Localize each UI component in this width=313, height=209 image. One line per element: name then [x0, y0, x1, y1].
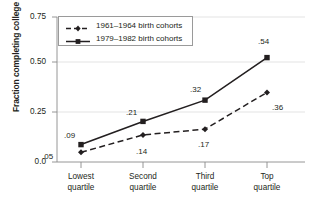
data-label-1961-1964-third: .17 — [198, 140, 209, 149]
data-point — [78, 142, 83, 147]
y-tick-label-075: 0.75 — [16, 12, 46, 21]
x-tick-label-top-quartile: Top quartile — [232, 172, 302, 193]
series-markers-1979-1982 — [78, 55, 269, 147]
legend-item-1979-1982[interactable]: 1979–1982 birth cohorts — [65, 32, 182, 45]
x-tick-label-line-2: quartile — [108, 183, 178, 194]
data-point — [202, 97, 207, 102]
legend-label-1979-1982: 1979–1982 birth cohorts — [96, 34, 182, 43]
x-tick-label-line-2: quartile — [46, 183, 116, 194]
data-point — [202, 126, 208, 132]
data-label-1979-1982-lowest: .09 — [64, 131, 75, 140]
legend-item-1961-1964[interactable]: 1961–1964 birth cohorts — [65, 19, 182, 32]
series-line-1961-1964 — [81, 92, 267, 152]
data-label-1979-1982-top: .54 — [258, 37, 269, 46]
chart-container: Fraction completing college 0.75 0.50 0.… — [0, 0, 313, 209]
data-point — [140, 119, 145, 124]
x-tick-label-line-1: Third — [170, 172, 240, 183]
x-tick-label-line-2: quartile — [232, 183, 302, 194]
x-tick-label-line-1: Top — [232, 172, 302, 183]
x-tick-label-second-quartile: Second quartile — [108, 172, 178, 193]
data-label-1961-1964-second: .14 — [136, 147, 147, 156]
data-point — [78, 149, 84, 155]
x-tick-label-line-1: Lowest — [46, 172, 116, 183]
legend-label-1961-1964: 1961–1964 birth cohorts — [96, 21, 182, 30]
legend-swatch-solid-square-icon — [65, 33, 91, 44]
y-tick-label-025: 0.25 — [16, 107, 46, 116]
legend-swatch-dashed-diamond-icon — [65, 20, 91, 31]
data-label-1961-1964-lowest: .05 — [42, 152, 53, 161]
legend: 1961–1964 birth cohorts 1979–1982 birth … — [58, 16, 193, 46]
series-markers-1961-1964 — [78, 89, 270, 155]
x-tick-label-line-1: Second — [108, 172, 178, 183]
data-point — [140, 132, 146, 138]
data-point — [264, 55, 269, 60]
data-label-1979-1982-third: .32 — [190, 85, 201, 94]
data-label-1961-1964-top: .36 — [272, 103, 283, 112]
x-tick-label-lowest-quartile: Lowest quartile — [46, 172, 116, 193]
x-tick-label-line-2: quartile — [170, 183, 240, 194]
x-tick-label-third-quartile: Third quartile — [170, 172, 240, 193]
y-tick-label-050: 0.50 — [16, 57, 46, 66]
data-label-1979-1982-second: .21 — [126, 108, 137, 117]
